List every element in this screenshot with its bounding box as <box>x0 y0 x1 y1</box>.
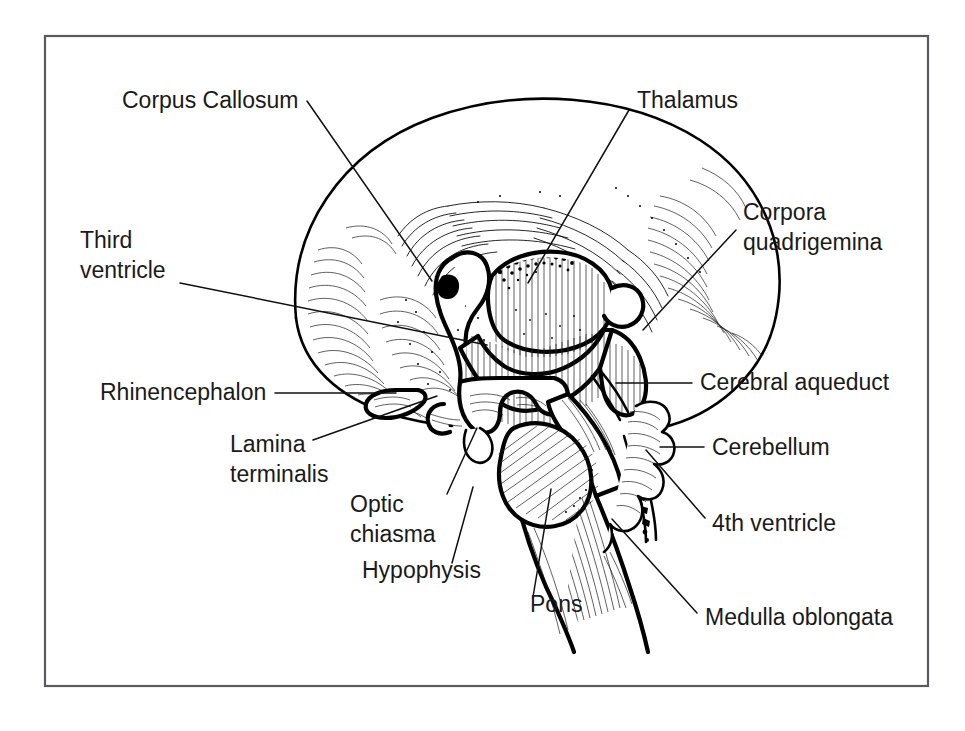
label-text-third-ventricle-line1: Third <box>80 227 132 253</box>
label-text-hypophysis: Hypophysis <box>362 557 481 583</box>
label-text-lamina-terminalis-line2: terminalis <box>230 461 328 487</box>
label-text-corpora-quadrigemina-line1: Corpora <box>743 199 826 225</box>
label-text-corpora-quadrigemina-line2: quadrigemina <box>743 229 883 255</box>
label-text-fourth-ventricle: 4th ventricle <box>712 510 836 536</box>
label-text-cerebral-aqueduct: Cerebral aqueduct <box>700 369 890 395</box>
label-text-cerebellum: Cerebellum <box>712 434 830 460</box>
label-text-optic-chiasma-line1: Optic <box>350 491 404 517</box>
label-text-medulla-oblongata: Medulla oblongata <box>705 604 893 630</box>
label-text-corpus-callosum: Corpus Callosum <box>122 87 298 113</box>
label-text-pons: Pons <box>530 591 582 617</box>
label-text-third-ventricle-line2: ventricle <box>80 257 166 283</box>
label-text-thalamus: Thalamus <box>637 87 738 113</box>
brain-diagram-figure: Corpus Callosum Thalamus Corpora quadrig… <box>0 0 965 731</box>
label-text-lamina-terminalis-line1: Lamina <box>230 431 306 457</box>
label-text-optic-chiasma-line2: chiasma <box>350 521 436 547</box>
label-text-rhinencephalon: Rhinencephalon <box>100 379 266 405</box>
diagram-canvas: Corpus Callosum Thalamus Corpora quadrig… <box>0 0 965 731</box>
hypophysis-body <box>464 428 492 463</box>
